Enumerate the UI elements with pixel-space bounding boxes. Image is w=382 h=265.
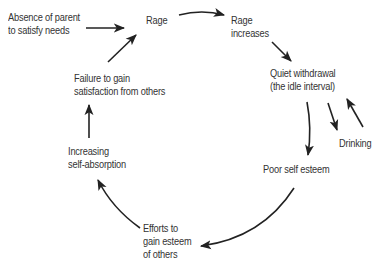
arrow-efforts-to-self-absorption [98,180,140,228]
node-poor-self-esteem: Poor self esteem [263,163,330,176]
node-efforts-to-gain-esteem: Efforts to gain esteem of others [143,222,191,261]
node-absence-of-parent: Absence of parent to satisfy needs [8,11,80,37]
arrow-quiet-withdrawal-to-drinking [328,103,337,130]
node-drinking: Drinking [339,137,371,150]
node-increasing-self-absorption: Increasing self-absorption [68,145,126,171]
node-rage-increases: Rage increases [231,14,269,40]
arrow-drinking-to-quiet-withdrawal [347,99,363,127]
arrow-rage-increases-to-quiet-withdrawal [272,42,291,61]
node-failure-to-gain-satisfaction: Failure to gain satisfaction from others [74,72,165,98]
node-rage: Rage [146,14,167,27]
node-quiet-withdrawal: Quiet withdrawal (the idle interval) [270,67,335,93]
arrow-poor-self-esteem-to-efforts [201,188,294,246]
arrow-rage-to-rage-increases [179,12,224,15]
arrow-quiet-withdrawal-to-poor-self-esteem [307,102,310,155]
arrow-failure-to-rage [108,35,136,62]
